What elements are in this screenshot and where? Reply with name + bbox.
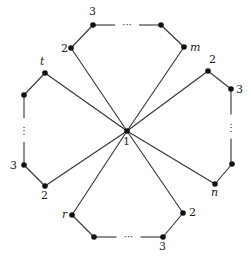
edge xyxy=(24,165,45,186)
node-b3 xyxy=(160,234,166,240)
node-label-b3: 3 xyxy=(159,240,166,253)
node-t3 xyxy=(90,22,96,28)
node-br xyxy=(69,212,75,218)
node-t2 xyxy=(68,45,74,51)
node-label-l3: 3 xyxy=(10,159,17,172)
node-bk xyxy=(91,234,97,240)
edge xyxy=(72,215,94,237)
edge xyxy=(127,131,183,213)
edge xyxy=(45,73,127,131)
edge xyxy=(163,213,183,237)
node-label-b2: 2 xyxy=(189,206,196,219)
edge xyxy=(127,71,208,131)
edge xyxy=(45,131,127,186)
ellipsis-vertical: ⋮ xyxy=(226,122,236,133)
edge xyxy=(127,131,215,184)
node-label-r2: 2 xyxy=(209,53,216,66)
node-label-rn: n xyxy=(211,186,218,199)
edge xyxy=(208,71,231,89)
graph-diagram: ···⋮···⋮123m23n23rt32 xyxy=(0,0,250,259)
ellipsis-horizontal: ··· xyxy=(124,231,134,242)
edge xyxy=(71,25,93,48)
edge xyxy=(72,131,127,215)
node-r2 xyxy=(205,68,211,74)
node-label-l2: 2 xyxy=(41,189,48,202)
edge xyxy=(127,47,184,131)
node-center xyxy=(124,128,130,134)
node-label-t3: 3 xyxy=(89,5,96,18)
node-lk xyxy=(21,92,27,98)
node-b2 xyxy=(180,210,186,216)
node-lt xyxy=(42,70,48,76)
edge xyxy=(161,25,184,47)
ellipsis-vertical: ⋮ xyxy=(19,125,29,136)
node-label-tm: m xyxy=(190,41,200,54)
node-tk xyxy=(158,22,164,28)
node-label-t2: 2 xyxy=(61,42,68,55)
ellipsis-horizontal: ··· xyxy=(122,19,132,30)
graph-svg: ···⋮···⋮123m23n23rt32 xyxy=(0,0,250,259)
edge xyxy=(24,73,45,95)
node-rk xyxy=(229,161,235,167)
node-r3 xyxy=(228,86,234,92)
node-label-r3: 3 xyxy=(236,83,243,96)
node-label-center: 1 xyxy=(123,135,130,148)
node-tm xyxy=(181,44,187,50)
node-l2 xyxy=(42,183,48,189)
edge xyxy=(71,48,127,131)
node-label-br: r xyxy=(62,208,68,221)
edge xyxy=(215,164,232,184)
node-l3 xyxy=(21,162,27,168)
node-label-lt: t xyxy=(40,55,45,68)
